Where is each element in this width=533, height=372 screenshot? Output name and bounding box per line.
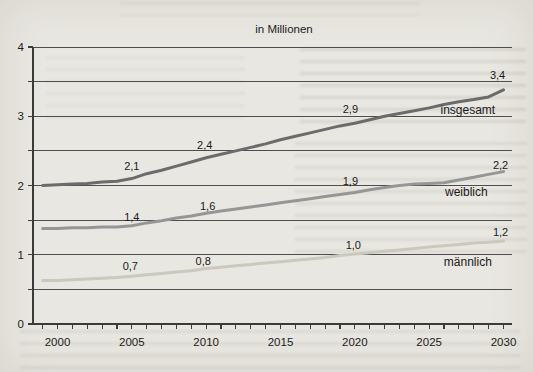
series-line-insgesamt: [43, 90, 504, 186]
value-label: 1,2: [493, 226, 508, 238]
series-label: weiblich: [444, 185, 488, 199]
value-label: 1,6: [200, 200, 215, 212]
x-tick-label: 2015: [268, 336, 294, 348]
x-tick-label: 2020: [342, 336, 368, 348]
value-label: 2,2: [493, 159, 508, 171]
series-label: männlich: [444, 255, 492, 269]
x-tick-label: 2005: [119, 336, 145, 348]
y-tick-label: 4: [18, 41, 25, 53]
x-tick-label: 2025: [416, 336, 442, 348]
value-label: 2,1: [124, 160, 139, 172]
y-tick-label: 0: [18, 318, 24, 330]
value-label: 2,4: [197, 139, 212, 151]
value-label: 1,4: [124, 211, 139, 223]
series-line-mnnlich: [43, 241, 504, 281]
x-tick-label: 2000: [45, 336, 71, 348]
y-tick-label: 1: [18, 249, 24, 261]
scanned-page: in Millionen 012342000200520102015202020…: [0, 0, 533, 372]
y-tick-label: 3: [18, 110, 24, 122]
value-label: 2,9: [343, 103, 358, 115]
value-label: 1,0: [346, 239, 361, 251]
x-tick-label: 2030: [491, 336, 517, 348]
y-tick-label: 2: [18, 180, 24, 192]
value-label: 1,9: [343, 175, 358, 187]
value-label: 0,7: [123, 260, 138, 272]
value-label: 0,8: [196, 255, 211, 267]
series-label: insgesamt: [440, 103, 495, 117]
chart-svg: 0123420002005201020152020202520302,12,42…: [0, 0, 533, 372]
x-tick-label: 2010: [193, 336, 219, 348]
value-label: 3,4: [490, 69, 505, 81]
